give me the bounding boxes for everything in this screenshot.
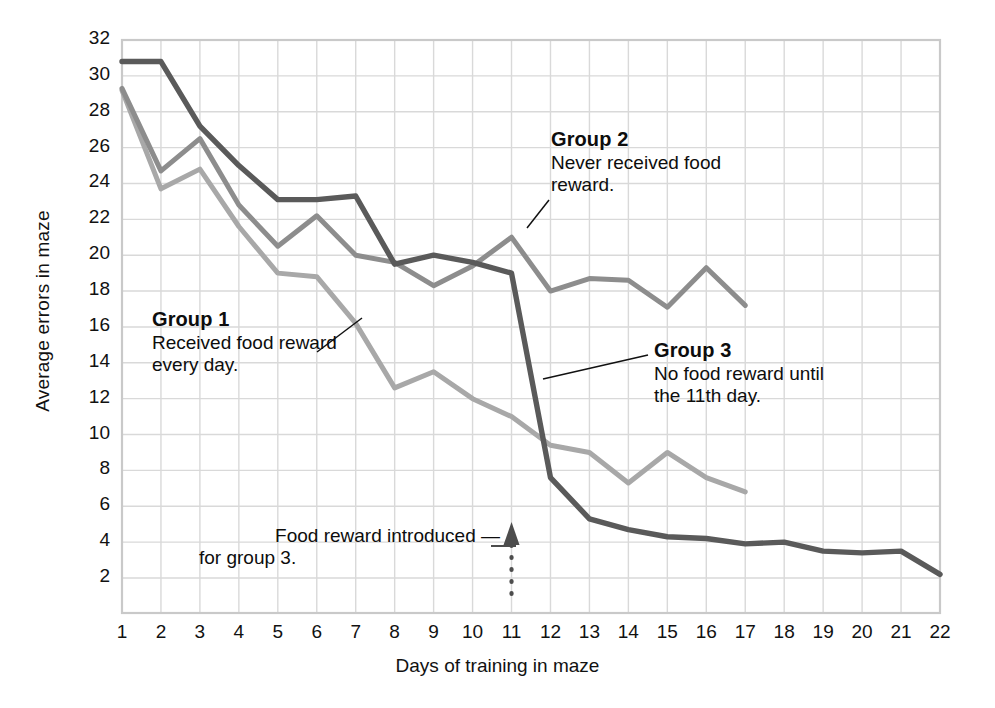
annotation-group-1-line-2: every day. <box>152 354 337 376</box>
y-tick-label-20: 20 <box>70 242 110 264</box>
x-axis-title: Days of training in maze <box>0 655 995 677</box>
chart-root: Average errors in maze Days of training … <box>0 0 995 708</box>
annotation-group-2: Group 2 Never received food reward. <box>551 128 721 196</box>
x-tick-label-4: 4 <box>219 621 259 643</box>
x-tick-label-8: 8 <box>375 621 415 643</box>
annotation-group-2-line-2: reward. <box>551 174 721 196</box>
annotation-group-1-title: Group 1 <box>152 308 337 332</box>
annotation-food-reward-marker: Food reward introduced — for group 3. <box>185 525 500 570</box>
annotation-group-1-line-1: Received food reward <box>152 332 337 354</box>
x-tick-label-7: 7 <box>336 621 376 643</box>
y-tick-label-16: 16 <box>70 314 110 336</box>
annotation-leader-lines <box>317 200 648 546</box>
y-tick-label-10: 10 <box>70 422 110 444</box>
annotation-group-3-title: Group 3 <box>654 339 824 363</box>
x-tick-label-17: 17 <box>725 621 765 643</box>
y-tick-label-4: 4 <box>70 529 110 551</box>
y-tick-label-2: 2 <box>70 565 110 587</box>
x-tick-label-16: 16 <box>686 621 726 643</box>
annotation-food-reward-line-2: for group 3. <box>185 547 500 569</box>
x-tick-label-21: 21 <box>881 621 921 643</box>
y-tick-label-12: 12 <box>70 386 110 408</box>
y-axis-title: Average errors in maze <box>32 171 54 451</box>
x-tick-label-1: 1 <box>102 621 142 643</box>
annotation-food-reward-line-1: Food reward introduced — <box>185 525 500 547</box>
annotation-group-3: Group 3 No food reward until the 11th da… <box>654 339 824 407</box>
x-tick-label-9: 9 <box>414 621 454 643</box>
annotation-group-3-line-2: the 11th day. <box>654 385 824 407</box>
y-tick-label-30: 30 <box>70 63 110 85</box>
annotation-group-2-line-1: Never received food <box>551 152 721 174</box>
y-tick-label-32: 32 <box>70 27 110 49</box>
x-tick-label-22: 22 <box>920 621 960 643</box>
y-tick-label-6: 6 <box>70 493 110 515</box>
leader-line-group-2 <box>527 200 549 228</box>
x-tick-label-3: 3 <box>180 621 220 643</box>
x-tick-label-12: 12 <box>530 621 570 643</box>
y-tick-label-8: 8 <box>70 457 110 479</box>
x-tick-label-10: 10 <box>453 621 493 643</box>
x-tick-label-6: 6 <box>297 621 337 643</box>
line-chart-canvas <box>0 0 995 708</box>
annotation-group-3-line-1: No food reward until <box>654 363 824 385</box>
x-tick-label-18: 18 <box>764 621 804 643</box>
y-tick-label-24: 24 <box>70 170 110 192</box>
y-tick-label-28: 28 <box>70 99 110 121</box>
x-tick-label-2: 2 <box>141 621 181 643</box>
y-tick-label-18: 18 <box>70 278 110 300</box>
y-tick-label-14: 14 <box>70 350 110 372</box>
y-tick-label-22: 22 <box>70 206 110 228</box>
annotation-group-2-title: Group 2 <box>551 128 721 152</box>
x-tick-label-11: 11 <box>492 621 532 643</box>
y-tick-label-26: 26 <box>70 135 110 157</box>
x-tick-label-20: 20 <box>842 621 882 643</box>
leader-line-group-3 <box>543 355 648 379</box>
x-tick-label-15: 15 <box>647 621 687 643</box>
x-tick-label-13: 13 <box>569 621 609 643</box>
x-tick-label-14: 14 <box>608 621 648 643</box>
annotation-group-1: Group 1 Received food reward every day. <box>152 308 337 376</box>
x-tick-label-5: 5 <box>258 621 298 643</box>
marker-arrow-head <box>504 522 520 545</box>
x-tick-label-19: 19 <box>803 621 843 643</box>
